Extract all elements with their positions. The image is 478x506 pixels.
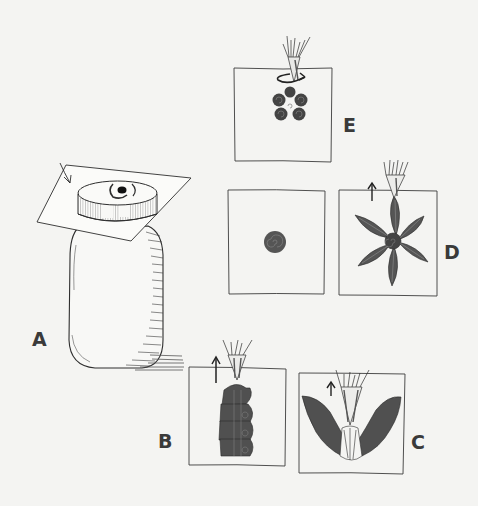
jar-lid-top [78,181,157,205]
label-e: E [343,116,356,135]
jar-body [69,226,163,368]
illustration-canvas: E D A B C [0,0,478,506]
illustration-svg [0,0,478,506]
arrow-up-icon [368,183,376,201]
panel-e [234,36,332,162]
panel-dot [228,190,325,294]
shell-center [340,426,362,460]
panel-a-jar [37,163,191,370]
label-b: B [158,432,172,451]
five-petal-flower [273,87,308,121]
piping-bag-icon [336,370,369,425]
ruffle-column [219,384,253,456]
label-c: C [411,433,425,452]
arrow-up-icon [327,382,335,396]
label-a: A [32,330,47,349]
panel-d [339,160,437,296]
piping-bag-icon [384,160,408,198]
piping-bag-icon [223,340,252,380]
arrow-up-icon [212,357,220,383]
panel-c [299,370,405,474]
rotate-arrow-icon [278,73,306,82]
six-petal-flower [355,196,428,286]
icing-dot [118,187,127,194]
panel-b [189,340,286,466]
label-d: D [444,243,460,262]
